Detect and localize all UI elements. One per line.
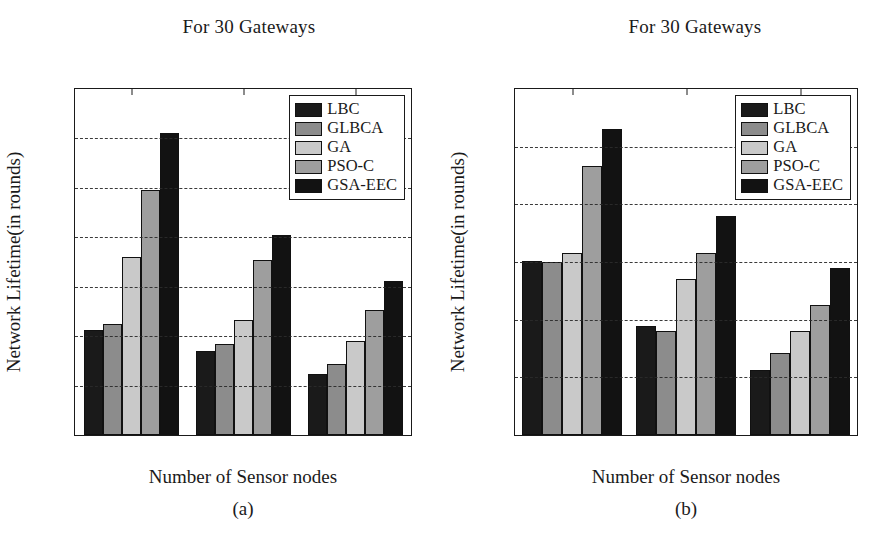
bar-gsa-eec-100: [602, 129, 622, 435]
chart-panel-a: For 30 Gateways Network Lifetime(in roun…: [0, 0, 446, 539]
legend-swatch-icon: [295, 122, 322, 136]
bar-glbca-500: [770, 353, 790, 435]
legend-item-pso-c: PSO-C: [741, 158, 843, 175]
panel-a-plot-area: LBCGLBCAGAPSO-CGSA-EEC 01002003004005006…: [74, 88, 412, 436]
panel-b-legend: LBCGLBCAGAPSO-CGSA-EEC: [735, 95, 851, 200]
legend-item-ga: GA: [295, 139, 397, 156]
legend-swatch-icon: [295, 103, 322, 117]
legend-label: LBC: [327, 101, 359, 118]
chart-panel-b: For 30 Gateways Network Lifetime(in roun…: [446, 0, 892, 539]
gridline: [75, 336, 411, 337]
legend-label: GSA-EEC: [773, 177, 843, 194]
legend-swatch-icon: [295, 160, 322, 174]
y-tick-label: 0: [74, 425, 75, 437]
bar-ga-100: [562, 253, 582, 435]
legend-item-ga: GA: [741, 139, 843, 156]
bar-group: [84, 89, 179, 435]
panel-a-caption: (a): [74, 498, 412, 520]
bar-glbca-100: [103, 324, 122, 435]
legend-label: GLBCA: [327, 120, 383, 137]
legend-item-gsa-eec: GSA-EEC: [295, 177, 397, 194]
bar-glbca-500: [327, 364, 346, 435]
bar-ga-100: [122, 257, 141, 435]
y-tick-label: 400: [514, 194, 515, 215]
y-tick-label: 0: [514, 425, 515, 437]
legend-label: PSO-C: [327, 158, 374, 175]
y-tick-label: 400: [74, 227, 75, 248]
gridline: [515, 204, 857, 205]
y-tick-label: 100: [514, 367, 515, 388]
bar-lbc-100: [522, 261, 542, 435]
x-tick-label: 500: [343, 435, 369, 436]
y-tick-label: 600: [74, 128, 75, 149]
x-tick-mark: [573, 89, 574, 95]
panel-b-title: For 30 Gateways: [446, 16, 892, 38]
gridline: [515, 377, 857, 378]
bar-lbc-500: [750, 370, 770, 435]
legend-item-lbc: LBC: [295, 101, 397, 118]
x-tick-label: 500: [788, 435, 814, 436]
legend-label: GLBCA: [773, 120, 829, 137]
bar-gsa-eec-300: [716, 216, 736, 435]
bar-pso-c-500: [810, 305, 830, 435]
bar-pso-c-100: [582, 166, 602, 435]
x-tick-label: 100: [119, 435, 145, 436]
gridline: [75, 287, 411, 288]
bar-ga-500: [790, 331, 810, 435]
bar-gsa-eec-100: [160, 133, 179, 435]
x-tick-label: 300: [674, 435, 700, 436]
bar-glbca-300: [656, 331, 676, 435]
legend-swatch-icon: [295, 141, 322, 155]
bar-group: [196, 89, 291, 435]
figure-container: For 30 Gateways Network Lifetime(in roun…: [0, 0, 892, 539]
panel-b-y-axis-title: Network Lifetime(in rounds): [447, 152, 469, 373]
bar-gsa-eec-500: [384, 281, 403, 435]
gridline: [75, 237, 411, 238]
legend-swatch-icon: [295, 179, 322, 193]
bar-glbca-100: [542, 262, 562, 435]
bar-pso-c-500: [365, 310, 384, 435]
bar-pso-c-100: [141, 190, 160, 435]
y-tick-label: 600: [514, 88, 515, 100]
legend-item-gsa-eec: GSA-EEC: [741, 177, 843, 194]
gridline: [515, 262, 857, 263]
bar-lbc-300: [636, 326, 656, 435]
legend-item-glbca: GLBCA: [741, 120, 843, 137]
bar-lbc-100: [84, 330, 103, 435]
panel-b-caption: (b): [514, 498, 858, 520]
legend-swatch-icon: [741, 179, 768, 193]
bar-lbc-300: [196, 351, 215, 435]
bar-glbca-300: [215, 344, 234, 435]
panel-a-y-axis-title: Network Lifetime(in rounds): [3, 152, 25, 373]
legend-swatch-icon: [741, 160, 768, 174]
legend-swatch-icon: [741, 122, 768, 136]
legend-swatch-icon: [741, 103, 768, 117]
y-tick-label: 500: [74, 177, 75, 198]
panel-a-title: For 30 Gateways: [0, 16, 472, 38]
y-tick-label: 300: [74, 276, 75, 297]
y-tick-label: 300: [514, 252, 515, 273]
bar-gsa-eec-300: [272, 235, 291, 435]
gridline: [515, 320, 857, 321]
panel-a-x-axis-title: Number of Sensor nodes: [74, 466, 412, 488]
x-tick-mark: [687, 89, 688, 95]
legend-label: PSO-C: [773, 158, 820, 175]
y-tick-label: 500: [514, 136, 515, 157]
panel-b-plot-area: LBCGLBCAGAPSO-CGSA-EEC 01002003004005006…: [514, 88, 858, 436]
x-tick-label: 300: [231, 435, 257, 436]
y-tick-label: 200: [514, 309, 515, 330]
y-tick-label: 200: [74, 326, 75, 347]
y-tick-label: 700: [74, 88, 75, 100]
panel-b-x-axis-title: Number of Sensor nodes: [514, 466, 858, 488]
x-tick-label: 100: [560, 435, 586, 436]
x-tick-mark: [244, 89, 245, 95]
gridline: [75, 386, 411, 387]
bar-ga-500: [346, 341, 365, 435]
x-tick-mark: [132, 89, 133, 95]
legend-item-glbca: GLBCA: [295, 120, 397, 137]
panel-a-legend: LBCGLBCAGAPSO-CGSA-EEC: [289, 95, 405, 200]
legend-swatch-icon: [741, 141, 768, 155]
y-tick-label: 100: [74, 375, 75, 396]
bar-lbc-500: [308, 374, 327, 435]
legend-label: GA: [327, 139, 351, 156]
